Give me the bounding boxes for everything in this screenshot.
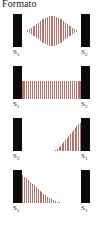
panel-2-left-label: S1 <box>13 100 19 108</box>
wave-stripe <box>32 184 33 203</box>
panel-2-wave <box>22 81 81 99</box>
wave-stripe <box>48 81 49 99</box>
wave-stripe <box>56 17 57 46</box>
wave-stripe <box>49 16 50 46</box>
wave-stripe <box>60 19 61 42</box>
panel-1-right-bar <box>81 14 90 47</box>
panel-row-4: S2 S1 <box>0 170 105 216</box>
wave-stripe <box>58 18 59 44</box>
wave-stripe <box>53 200 54 203</box>
wave-stripe <box>45 195 46 203</box>
wave-stripe <box>79 81 80 99</box>
wave-stripe <box>36 81 37 99</box>
wave-stripe <box>70 81 71 99</box>
panel-2-right-bar <box>81 66 90 99</box>
wave-stripe <box>55 201 56 203</box>
wave-stripe <box>54 81 55 99</box>
wave-stripe <box>31 28 32 35</box>
panel-2-right-label: S2 <box>81 100 87 108</box>
wave-stripe <box>47 17 48 46</box>
panel-3-left-label-sub: 2 <box>17 156 20 161</box>
wave-stripe <box>36 24 37 37</box>
wave-stripe <box>76 81 77 99</box>
wave-stripe <box>58 81 59 99</box>
wave-stripe <box>74 81 75 99</box>
panel-4-right-bar <box>81 170 90 203</box>
panel-3-right-label-sub: 1 <box>85 156 88 161</box>
panel-4-right-label: S1 <box>81 204 87 212</box>
wave-stripe <box>26 178 27 203</box>
wave-stripe <box>54 16 55 46</box>
wave-stripe <box>46 81 47 99</box>
panel-3-right-bar <box>81 118 90 151</box>
panel-3-right-label: S1 <box>81 152 87 160</box>
wave-stripe <box>47 197 48 203</box>
wave-stripe <box>59 202 60 203</box>
wave-stripe <box>24 81 25 99</box>
wave-stripe <box>41 192 42 203</box>
wave-stripe <box>74 29 75 33</box>
wave-stripe <box>28 81 29 99</box>
wave-stripe <box>57 202 58 203</box>
panel-1-right-label: S2 <box>81 48 87 56</box>
wave-stripe <box>38 189 39 203</box>
wave-stripe <box>26 81 27 99</box>
panel-1-left-bar <box>13 14 22 47</box>
panel-4-right-label-sub: 1 <box>85 208 88 213</box>
panel-3-left-label: S2 <box>13 152 19 160</box>
panel-row-3: S2 S1 <box>0 118 105 164</box>
wave-stripe <box>27 30 28 32</box>
wave-stripe <box>34 185 35 203</box>
panel-1-left-label: S1 <box>13 48 19 56</box>
wave-stripe <box>51 16 52 46</box>
wave-stripe <box>80 123 81 151</box>
panel-2-right-label-sub: 2 <box>85 104 88 109</box>
wave-stripe <box>50 81 51 99</box>
figure-title: Formato <box>2 0 37 9</box>
wave-stripe <box>32 81 33 99</box>
wave-stripe <box>34 81 35 99</box>
wave-stripe <box>22 81 23 99</box>
wave-stripe <box>22 175 23 203</box>
wave-stripe <box>40 191 41 203</box>
wave-stripe <box>69 26 70 36</box>
panel-3-wave <box>55 123 81 151</box>
panel-1-left-label-sub: 1 <box>17 52 20 57</box>
wave-stripe <box>65 23 66 40</box>
wave-stripe <box>62 81 63 99</box>
panel-3-left-bar <box>13 118 22 151</box>
wave-stripe <box>29 29 30 33</box>
wave-stripe <box>43 194 44 203</box>
wave-stripe <box>44 81 45 99</box>
wave-stripe <box>38 23 39 40</box>
wave-stripe <box>68 81 69 99</box>
wave-stripe <box>28 180 29 203</box>
wave-stripe <box>72 28 73 35</box>
wave-stripe <box>66 81 67 99</box>
wave-stripe <box>33 26 34 36</box>
wave-stripe <box>42 81 43 99</box>
formato-figure: Formato S1 S2 S1 S2 S2 S1 S2 S1 <box>0 0 105 237</box>
wave-stripe <box>56 81 57 99</box>
panel-4-left-label-sub: 2 <box>17 208 20 213</box>
panel-row-2: S1 S2 <box>0 66 105 112</box>
wave-stripe <box>49 198 50 203</box>
wave-stripe <box>51 199 52 203</box>
wave-stripe <box>64 81 65 99</box>
panel-row-1: S1 S2 <box>0 14 105 60</box>
wave-stripe <box>36 187 37 203</box>
wave-stripe <box>40 21 41 41</box>
wave-stripe <box>60 81 61 99</box>
wave-stripe <box>24 177 25 203</box>
panel-2-left-label-sub: 1 <box>17 104 20 109</box>
wave-stripe <box>52 81 53 99</box>
wave-stripe <box>63 21 64 41</box>
wave-stripe <box>40 81 41 99</box>
wave-stripe <box>30 81 31 99</box>
wave-stripe <box>42 19 43 42</box>
wave-stripe <box>45 18 46 44</box>
wave-stripe <box>38 81 39 99</box>
wave-stripe <box>67 24 68 37</box>
wave-stripe <box>78 81 79 99</box>
panel-1-right-label-sub: 2 <box>85 52 88 57</box>
